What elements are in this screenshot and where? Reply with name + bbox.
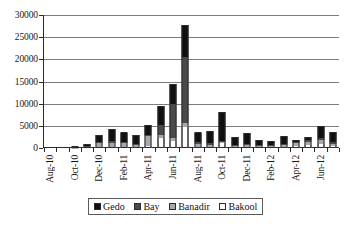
- bar-group[interactable]: [265, 15, 277, 148]
- legend-item[interactable]: Bay: [134, 201, 160, 212]
- bar-stack[interactable]: [120, 132, 127, 148]
- bar-group[interactable]: [204, 15, 216, 148]
- bar-stack[interactable]: [268, 141, 275, 148]
- bar-segment-bakool[interactable]: [206, 147, 213, 148]
- bar-group[interactable]: [216, 15, 228, 148]
- bar-segment-gedo[interactable]: [206, 131, 213, 143]
- x-tick-mark: [179, 148, 180, 152]
- bar-group[interactable]: [118, 15, 130, 148]
- bar-stack[interactable]: [194, 132, 201, 148]
- bar-group[interactable]: [142, 15, 154, 148]
- legend-item[interactable]: Banadir: [169, 201, 210, 212]
- bar-segment-bakool[interactable]: [305, 145, 312, 148]
- bar-stack[interactable]: [133, 135, 140, 148]
- bar-group[interactable]: [93, 15, 105, 148]
- x-tick-label: Jun-12: [316, 155, 326, 180]
- bar-segment-bakool[interactable]: [219, 143, 226, 148]
- bar-segment-gedo[interactable]: [120, 133, 127, 142]
- bar-segment-bakool[interactable]: [133, 147, 140, 148]
- bar-segment-bakool[interactable]: [182, 127, 189, 148]
- bar-segment-gedo[interactable]: [108, 129, 115, 142]
- bar-segment-bakool[interactable]: [194, 147, 201, 148]
- x-tick-mark: [93, 148, 94, 152]
- legend-item[interactable]: Gedo: [94, 201, 125, 212]
- bar-segment-gedo[interactable]: [243, 133, 250, 143]
- bar-segment-bakool[interactable]: [317, 144, 324, 148]
- bar-segment-gedo[interactable]: [219, 112, 226, 141]
- x-tick-label: Oct-10: [70, 155, 80, 180]
- bar-group[interactable]: [105, 15, 117, 148]
- bar-segment-bakool[interactable]: [292, 146, 299, 148]
- legend-item[interactable]: Bakool: [219, 201, 257, 212]
- bar-segment-bakool[interactable]: [120, 147, 127, 148]
- bar-segment-bay[interactable]: [170, 104, 177, 138]
- bar-stack[interactable]: [243, 133, 250, 148]
- bar-segment-gedo[interactable]: [182, 25, 189, 57]
- bar-group[interactable]: [290, 15, 302, 148]
- bar-segment-bakool[interactable]: [96, 147, 103, 148]
- x-tick-mark: [69, 148, 70, 152]
- bar-group[interactable]: [302, 15, 314, 148]
- bar-stack[interactable]: [84, 144, 91, 148]
- x-tick-mark: [118, 148, 119, 152]
- bar-group[interactable]: [69, 15, 81, 148]
- bar-stack[interactable]: [157, 106, 164, 148]
- x-tick-label: Feb-11: [119, 155, 129, 180]
- bar-stack[interactable]: [231, 137, 238, 148]
- bar-stack[interactable]: [317, 126, 324, 148]
- bar-segment-gedo[interactable]: [157, 106, 164, 125]
- bar-stack[interactable]: [219, 112, 226, 148]
- bar-group[interactable]: [81, 15, 93, 148]
- bar-group[interactable]: [327, 15, 339, 148]
- bar-group[interactable]: [314, 15, 326, 148]
- bar-segment-gedo[interactable]: [170, 84, 177, 104]
- bar-segment-gedo[interactable]: [194, 133, 201, 142]
- bar-segment-bakool[interactable]: [145, 146, 152, 148]
- bar-group[interactable]: [56, 15, 68, 148]
- bar-segment-banadir[interactable]: [145, 136, 152, 147]
- bar-segment-gedo[interactable]: [317, 126, 324, 138]
- bar-segment-bakool[interactable]: [231, 147, 238, 148]
- bar-group[interactable]: [228, 15, 240, 148]
- bar-group[interactable]: [167, 15, 179, 148]
- bar-stack[interactable]: [305, 137, 312, 148]
- bar-group[interactable]: [241, 15, 253, 148]
- bar-stack[interactable]: [256, 140, 263, 148]
- bar-segment-bay[interactable]: [182, 57, 189, 123]
- bar-stack[interactable]: [145, 125, 152, 148]
- bar-segment-bakool[interactable]: [157, 138, 164, 148]
- bar-segment-bakool[interactable]: [243, 147, 250, 148]
- bar-segment-bakool[interactable]: [170, 141, 177, 148]
- bar-group[interactable]: [130, 15, 142, 148]
- bar-group[interactable]: [253, 15, 265, 148]
- bar-segment-bakool[interactable]: [268, 147, 275, 148]
- y-tick-label: 15000: [15, 77, 38, 87]
- bar-segment-gedo[interactable]: [145, 125, 152, 134]
- bar-segment-bakool[interactable]: [108, 147, 115, 148]
- x-tick-mark: [44, 148, 45, 152]
- bar-segment-gedo[interactable]: [133, 135, 140, 144]
- bar-segment-bakool[interactable]: [256, 147, 263, 148]
- bar-stack[interactable]: [292, 140, 299, 148]
- bar-group[interactable]: [155, 15, 167, 148]
- bar-stack[interactable]: [170, 84, 177, 148]
- bar-group[interactable]: [44, 15, 56, 148]
- bar-stack[interactable]: [182, 25, 189, 148]
- bar-group[interactable]: [179, 15, 191, 148]
- bar-stack[interactable]: [206, 131, 213, 148]
- bar-segment-banadir[interactable]: [84, 147, 91, 148]
- bar-stack[interactable]: [280, 136, 287, 148]
- x-tick-mark: [241, 148, 242, 152]
- bar-segment-bay[interactable]: [157, 125, 164, 134]
- bar-group[interactable]: [278, 15, 290, 148]
- bar-stack[interactable]: [329, 132, 336, 148]
- bar-stack[interactable]: [108, 129, 115, 149]
- bar-segment-gedo[interactable]: [329, 132, 336, 143]
- bar-segment-bakool[interactable]: [280, 147, 287, 148]
- bar-segment-gedo[interactable]: [231, 137, 238, 144]
- bar-stack[interactable]: [96, 135, 103, 148]
- bar-stack[interactable]: [71, 147, 78, 148]
- bar-segment-gedo[interactable]: [280, 136, 287, 144]
- bar-group[interactable]: [192, 15, 204, 148]
- bar-segment-bakool[interactable]: [329, 146, 336, 148]
